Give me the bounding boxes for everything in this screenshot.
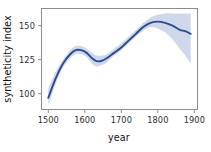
x-tick-label: 1800 [147, 115, 168, 125]
y-tick-label: 125 [19, 55, 35, 65]
chart-figure: 15001600170018001900 100125150 year synt… [0, 0, 211, 152]
y-axis-title: syntheticity index [2, 15, 13, 103]
x-tick-label: 1700 [111, 115, 132, 125]
x-axis-title: year [108, 132, 130, 143]
y-axis-tick-labels: 100125150 [19, 21, 35, 99]
syntheticity-index-line-chart: 15001600170018001900 100125150 year synt… [0, 0, 211, 152]
y-axis-ticks [38, 26, 41, 94]
x-tick-label: 1500 [38, 115, 59, 125]
x-tick-label: 1600 [74, 115, 95, 125]
y-tick-label: 150 [19, 21, 35, 31]
x-axis-ticks [48, 110, 194, 113]
x-axis-tick-labels: 15001600170018001900 [38, 115, 205, 125]
y-tick-label: 100 [19, 89, 35, 99]
x-tick-label: 1900 [184, 115, 205, 125]
